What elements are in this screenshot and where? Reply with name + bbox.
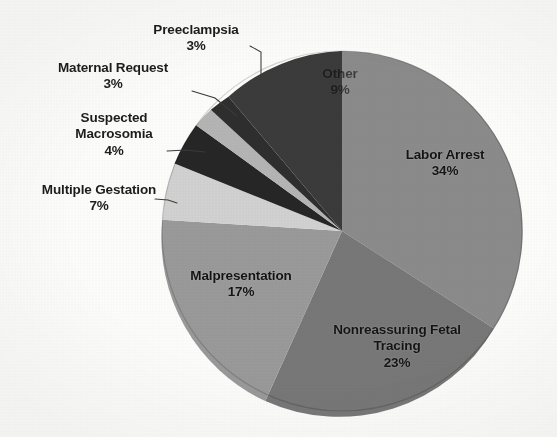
slice-label-text-nonreassuring-fetal-tracing: Nonreassuring Fetal Tracing [333,322,461,353]
slice-percent-nonreassuring-fetal-tracing: 23% [322,355,472,371]
slice-label-labor-arrest: Labor Arrest 34% [386,147,504,180]
slice-percent-malpresentation: 17% [166,284,316,300]
pie-chart-page: Preeclampsia 3% Maternal Request 3% Susp… [0,0,557,437]
slice-percent-other: 9% [303,82,377,98]
slice-label-text-maternal-request: Maternal Request [58,60,168,75]
slice-percent-labor-arrest: 34% [386,163,504,179]
slice-label-multiple-gestation: Multiple Gestation 7% [8,182,190,215]
slice-label-text-suspected-macrosomia-line2: Macrosomia [38,126,190,142]
slice-label-text-suspected-macrosomia-line1: Suspected [81,110,148,125]
slice-label-text-labor-arrest: Labor Arrest [406,147,485,162]
slice-percent-multiple-gestation: 7% [8,198,190,214]
pie-chart: Preeclampsia 3% Maternal Request 3% Susp… [0,0,557,437]
slice-label-maternal-request: Maternal Request 3% [28,60,198,93]
slice-label-text-preeclampsia: Preeclampsia [153,22,238,37]
slice-label-malpresentation: Malpresentation 17% [166,268,316,301]
slice-label-suspected-macrosomia: Suspected Macrosomia 4% [38,110,190,159]
slice-label-text-multiple-gestation: Multiple Gestation [42,182,156,197]
slice-label-text-malpresentation: Malpresentation [190,268,291,283]
slice-label-text-other: Other [322,66,357,81]
slice-label-nonreassuring-fetal-tracing: Nonreassuring Fetal Tracing 23% [322,322,472,371]
slice-percent-preeclampsia: 3% [132,38,260,54]
slice-label-preeclampsia: Preeclampsia 3% [132,22,260,55]
slice-percent-suspected-macrosomia: 4% [38,143,190,159]
slice-label-other: Other 9% [303,66,377,99]
slice-percent-maternal-request: 3% [28,76,198,92]
